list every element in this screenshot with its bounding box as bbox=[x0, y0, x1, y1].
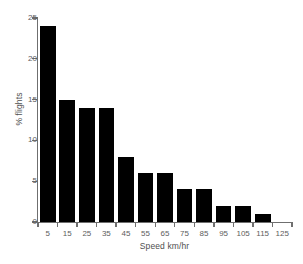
x-tick-mark bbox=[57, 222, 58, 227]
x-tick-mark bbox=[291, 222, 292, 227]
x-tick-mark bbox=[37, 222, 38, 227]
bar bbox=[99, 108, 115, 222]
x-tick-mark bbox=[174, 222, 175, 227]
x-tick-mark bbox=[194, 222, 195, 227]
x-tick-mark bbox=[233, 222, 234, 227]
bar bbox=[59, 100, 75, 222]
x-tick-mark bbox=[213, 222, 214, 227]
bar-chart: 0510152025 5152535455565758595105115125 … bbox=[0, 0, 303, 264]
y-tick-label: 0 bbox=[11, 218, 37, 226]
x-tick-mark bbox=[272, 222, 273, 227]
x-tick-label: 65 bbox=[161, 229, 170, 238]
x-tick-label: 125 bbox=[276, 229, 289, 238]
bar bbox=[196, 189, 212, 222]
bar bbox=[216, 206, 232, 222]
x-axis-title: Speed km/hr bbox=[37, 241, 292, 251]
x-tick-mark bbox=[76, 222, 77, 227]
x-tick-label: 75 bbox=[180, 229, 189, 238]
x-tick-label: 25 bbox=[82, 229, 91, 238]
bar bbox=[138, 173, 154, 222]
bar bbox=[79, 108, 95, 222]
x-tick-mark bbox=[96, 222, 97, 227]
x-tick-mark bbox=[115, 222, 116, 227]
x-tick-label: 105 bbox=[236, 229, 249, 238]
bar bbox=[177, 189, 193, 222]
bar bbox=[157, 173, 173, 222]
y-tick-label: 20 bbox=[11, 55, 37, 63]
x-tick-label: 5 bbox=[46, 229, 50, 238]
x-tick-mark bbox=[252, 222, 253, 227]
x-tick-label: 85 bbox=[200, 229, 209, 238]
x-tick-label: 35 bbox=[102, 229, 111, 238]
bar bbox=[255, 214, 271, 222]
bar bbox=[40, 26, 56, 222]
x-tick-label: 45 bbox=[121, 229, 130, 238]
y-axis-title: % flights bbox=[14, 79, 24, 139]
x-tick-label: 115 bbox=[256, 229, 269, 238]
bar bbox=[235, 206, 251, 222]
x-tick-mark bbox=[155, 222, 156, 227]
bar bbox=[118, 157, 134, 222]
x-tick-mark bbox=[135, 222, 136, 227]
x-tick-label: 15 bbox=[63, 229, 72, 238]
x-tick-label: 95 bbox=[219, 229, 228, 238]
y-axis-line bbox=[37, 17, 38, 223]
x-tick-label: 55 bbox=[141, 229, 150, 238]
y-tick-label: 5 bbox=[11, 177, 37, 185]
y-tick-label: 25 bbox=[11, 14, 37, 22]
